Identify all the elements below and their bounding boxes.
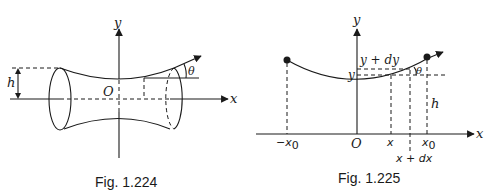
x-axis-label: x (476, 126, 484, 141)
h-arrow-down (15, 93, 21, 99)
y-axis-label: y (113, 15, 122, 30)
figures-canvas: x y O h θ Fig. 1.224 (0, 0, 496, 192)
theta-label: θ (416, 65, 422, 76)
figure-1-224: x y O h θ Fig. 1.224 (7, 15, 238, 190)
neg-x0-label: −x0 (276, 136, 299, 152)
figure-caption: Fig. 1.224 (95, 174, 157, 190)
right-endpoint (424, 54, 431, 61)
h-label: h (431, 96, 439, 111)
y-label: y (347, 68, 355, 82)
y-axis-label: y (352, 12, 361, 27)
figure-1-225: x y O θ y + dy y h −x0 x x0 x + dx Fig. … (256, 12, 484, 186)
left-endpoint (284, 57, 291, 64)
x0-label: x0 (421, 136, 436, 152)
catenary-curve (287, 57, 430, 79)
figure-caption: Fig. 1.225 (338, 170, 400, 186)
origin-label: O (351, 136, 362, 151)
h-arrow-up (15, 68, 21, 74)
x-axis-label: x (230, 91, 238, 106)
x-dx-label: x + dx (395, 152, 433, 165)
theta-arc (184, 64, 186, 78)
top-curve (60, 68, 174, 79)
theta-label: θ (188, 65, 195, 78)
h-label: h (7, 75, 15, 90)
x-label: x (386, 136, 394, 149)
bottom-curve (64, 119, 170, 130)
origin-label: O (103, 84, 114, 99)
y-dy-label: y + dy (359, 53, 399, 67)
